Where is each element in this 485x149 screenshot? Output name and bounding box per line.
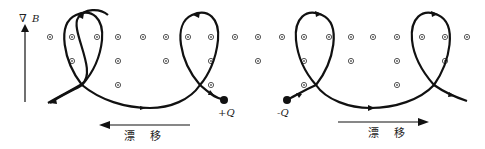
drift-right-arrow: 漂 移: [338, 118, 429, 140]
field-dot-center: [328, 36, 330, 38]
drift-left-label: 漂 移: [124, 130, 168, 143]
field-dot-center: [303, 60, 305, 62]
field-dot-center: [117, 84, 119, 86]
drift-right-label: 漂 移: [368, 127, 412, 140]
field-dot-center: [117, 60, 119, 62]
drift-left-arrow: 漂 移: [99, 121, 190, 143]
field-dot-center: [372, 36, 374, 38]
field-dot-center: [396, 36, 398, 38]
field-dot-center: [71, 60, 73, 62]
field-dot-center: [421, 36, 423, 38]
field-dot-center: [165, 60, 167, 62]
negative-charge-label: -Q: [277, 107, 289, 118]
field-label: B: [31, 13, 39, 24]
field-gradient-axis: ∇ B: [19, 12, 39, 102]
negative-charge-arrows: [296, 11, 455, 111]
field-dots: [47, 34, 469, 87]
arrow-left-icon: [99, 121, 110, 129]
field-dot-center: [257, 60, 259, 62]
field-dot-center: [396, 84, 398, 86]
field-dot-center: [210, 60, 212, 62]
field-dot-center: [142, 36, 144, 38]
field-dot-center: [466, 36, 468, 38]
field-dot-center: [49, 36, 51, 38]
field-dot-center: [210, 36, 212, 38]
field-dot-center: [350, 36, 352, 38]
field-dot-center: [96, 36, 98, 38]
field-dot-center: [165, 36, 167, 38]
field-dot-center: [210, 84, 212, 86]
field-dot-center: [444, 36, 446, 38]
negative-charge: [283, 96, 291, 104]
arrow-up-icon: [21, 24, 29, 32]
field-dot-center: [187, 36, 189, 38]
field-dot-center: [396, 60, 398, 62]
positive-charge-label: +Q: [218, 107, 235, 118]
field-dot-center: [71, 36, 73, 38]
positive-charge: [220, 96, 228, 104]
drift-diagram: ∇ B +Q -Q 漂 移: [0, 0, 485, 149]
field-dot-center: [117, 36, 119, 38]
field-dot-center: [303, 36, 305, 38]
field-dot-center: [303, 84, 305, 86]
field-dot-center: [281, 36, 283, 38]
field-dot-center: [350, 60, 352, 62]
field-dot-center: [257, 36, 259, 38]
negative-charge-trajectory: [286, 13, 467, 108]
nabla-symbol: ∇: [19, 12, 27, 25]
arrow-right-icon: [418, 118, 429, 126]
field-dot-center: [234, 36, 236, 38]
